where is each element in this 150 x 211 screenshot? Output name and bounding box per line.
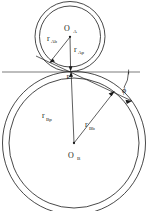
pressure-angle-label: ϕ bbox=[122, 86, 126, 95]
gear-b-center-sublabel: B bbox=[77, 156, 81, 161]
radius-a-pitch-line bbox=[70, 37, 71, 70]
radius-a-pitch-label: r bbox=[74, 45, 77, 54]
radius-a-base-label: r bbox=[47, 34, 50, 43]
gear-a-center-label: O bbox=[64, 24, 70, 33]
gear-a-center-dot bbox=[69, 36, 71, 38]
radius-b-pitch-label: r bbox=[42, 111, 45, 120]
gear-diagram-canvas: O A r Ab r Ap P ϕ r Bp r Bb O B bbox=[0, 0, 150, 211]
radius-b-pitch-line bbox=[71, 74, 74, 144]
gear-geometry-diagram: O A r Ab r Ap P ϕ r Bp r Bb O B bbox=[0, 0, 150, 211]
radius-a-base-sublabel: Ab bbox=[51, 39, 58, 44]
radius-b-base-label: r bbox=[85, 120, 88, 129]
gear-a-center-sublabel: A bbox=[73, 29, 77, 34]
radius-a-pitch-arrowhead bbox=[69, 66, 73, 71]
radius-a-pitch-sublabel: Ap bbox=[78, 50, 85, 55]
gear-b-center-label: O bbox=[68, 151, 74, 160]
radius-b-base-sublabel: Bb bbox=[89, 126, 95, 131]
radius-b-base-line bbox=[74, 93, 114, 144]
gear-b-center-dot bbox=[73, 142, 75, 144]
radius-b-pitch-sublabel: Bp bbox=[46, 117, 52, 122]
